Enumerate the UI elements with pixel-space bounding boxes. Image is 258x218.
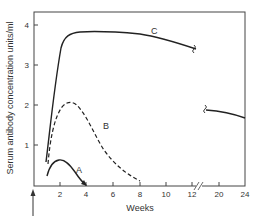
antibody-chart: 1 2 3 4 2 4 6 8 10 12 20 24 Weeks Serum … (0, 0, 258, 218)
curve-c (46, 32, 196, 162)
curve-a-label: A (76, 165, 82, 175)
x-tick-24: 24 (241, 190, 250, 199)
x-tick-8: 8 (138, 190, 143, 199)
curve-c-break-mark (204, 105, 207, 113)
x-tick-2: 2 (58, 190, 63, 199)
x-axis-title: Weeks (126, 203, 154, 213)
x-axis-ticks: 2 4 6 8 10 12 20 24 (58, 182, 250, 199)
y-tick-3: 3 (25, 61, 30, 70)
y-tick-4: 4 (25, 21, 30, 30)
y-tick-2: 2 (25, 101, 30, 110)
curve-c-late (206, 110, 245, 118)
x-tick-6: 6 (111, 190, 116, 199)
immunization-arrow-icon (31, 189, 36, 216)
x-tick-4: 4 (84, 190, 89, 199)
curve-b-label: B (103, 121, 109, 131)
y-axis-ticks: 1 2 3 4 (25, 21, 38, 150)
x-tick-12: 12 (188, 190, 197, 199)
y-axis-title: Serum antibody concentration units/ml (5, 21, 15, 174)
y-tick-1: 1 (25, 141, 30, 150)
curve-c-label: C (151, 26, 158, 36)
x-tick-20: 20 (215, 190, 224, 199)
x-tick-10: 10 (162, 190, 171, 199)
curve-b (48, 102, 140, 181)
